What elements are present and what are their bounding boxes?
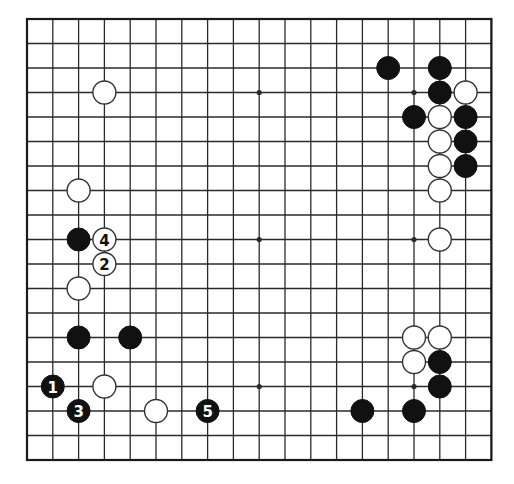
move-number: 4	[99, 232, 109, 250]
white-stone-icon	[428, 228, 451, 251]
move-number: 5	[202, 403, 212, 421]
black-stone-icon	[454, 155, 477, 178]
white-stone	[428, 106, 451, 129]
star-point	[411, 384, 416, 389]
white-stone-icon	[67, 179, 90, 202]
white-stone-icon	[93, 375, 116, 398]
black-stone	[403, 400, 426, 423]
black-stone-move-3: 3	[67, 400, 90, 423]
black-stone-icon	[428, 81, 451, 104]
white-stone-icon	[428, 106, 451, 129]
black-stone	[377, 57, 400, 80]
black-stone-icon	[428, 375, 451, 398]
white-stone	[428, 155, 451, 178]
black-stone	[119, 326, 142, 349]
black-stone-icon	[454, 106, 477, 129]
star-point	[257, 384, 262, 389]
black-stone	[67, 228, 90, 251]
black-stone	[428, 375, 451, 398]
white-stone	[93, 375, 116, 398]
white-stone	[145, 400, 168, 423]
star-point	[411, 90, 416, 95]
white-stone-icon	[428, 179, 451, 202]
white-stone-icon	[428, 155, 451, 178]
black-stone	[454, 106, 477, 129]
white-stone	[403, 351, 426, 374]
white-stone	[428, 228, 451, 251]
white-stone	[93, 81, 116, 104]
move-number: 1	[48, 379, 58, 397]
white-stone	[454, 81, 477, 104]
black-stone-icon	[119, 326, 142, 349]
black-stone-icon	[67, 326, 90, 349]
white-stone-icon	[403, 351, 426, 374]
white-stone	[67, 277, 90, 300]
black-stone-icon	[377, 57, 400, 80]
black-stone	[428, 351, 451, 374]
white-stone	[428, 326, 451, 349]
star-point	[411, 237, 416, 242]
white-stone-icon	[67, 277, 90, 300]
black-stone-icon	[454, 130, 477, 153]
black-stone-icon	[428, 57, 451, 80]
white-stone-move-4: 4	[93, 228, 116, 251]
star-point	[257, 90, 262, 95]
white-stone	[67, 179, 90, 202]
black-stone-move-5: 5	[196, 400, 219, 423]
black-stone	[428, 57, 451, 80]
black-stone-icon	[428, 351, 451, 374]
black-stone	[428, 81, 451, 104]
black-stone	[454, 130, 477, 153]
white-stone-icon	[145, 400, 168, 423]
white-stone-icon	[93, 81, 116, 104]
black-stone	[351, 400, 374, 423]
white-stone-icon	[454, 81, 477, 104]
move-number: 3	[73, 403, 83, 421]
black-stone	[67, 326, 90, 349]
black-stone-icon	[403, 400, 426, 423]
white-stone-icon	[428, 130, 451, 153]
black-stone-icon	[351, 400, 374, 423]
black-stone-move-1: 1	[41, 375, 64, 398]
white-stone-icon	[428, 326, 451, 349]
white-stone-move-2: 2	[93, 253, 116, 276]
go-board: 42135	[0, 0, 514, 484]
black-stone-icon	[403, 106, 426, 129]
white-stone	[428, 179, 451, 202]
white-stone	[428, 130, 451, 153]
white-stone	[403, 326, 426, 349]
move-number: 2	[99, 256, 109, 274]
white-stone-icon	[403, 326, 426, 349]
black-stone	[403, 106, 426, 129]
black-stone-icon	[67, 228, 90, 251]
star-point	[257, 237, 262, 242]
black-stone	[454, 155, 477, 178]
